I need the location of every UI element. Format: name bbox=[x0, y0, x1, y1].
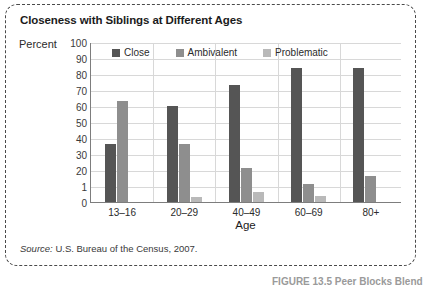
bar-close bbox=[105, 144, 116, 202]
figure-container: Closeness with Siblings at Different Age… bbox=[5, 4, 416, 266]
bar-ambivalent bbox=[117, 101, 128, 202]
page-title: Closeness with Siblings at Different Age… bbox=[20, 14, 242, 26]
legend-item-ambivalent: Ambivalent bbox=[176, 47, 250, 58]
bar-problematic bbox=[315, 196, 326, 202]
y-axis-tick-label: 1 bbox=[81, 182, 87, 193]
legend-label: Problematic bbox=[275, 47, 328, 58]
y-axis-tick-label: 30 bbox=[76, 150, 87, 161]
bar-ambivalent bbox=[179, 144, 190, 202]
bar-ambivalent bbox=[241, 168, 252, 202]
bar-group: 40–49 bbox=[215, 43, 277, 202]
chart-plot-area: 01203040506070809010013–1620–2940–4960–6… bbox=[90, 43, 401, 203]
x-axis-tick-label: 13–16 bbox=[108, 207, 136, 218]
y-axis-tick-label: 0 bbox=[81, 198, 87, 209]
x-axis-title: Age bbox=[90, 219, 401, 231]
chart-legend: CloseAmbivalentProblematic bbox=[112, 47, 354, 58]
figure-caption: FIGURE 13.5 Peer Blocks Blend bbox=[272, 276, 423, 287]
legend-item-problematic: Problematic bbox=[263, 47, 341, 58]
x-axis-tick-label: 20–29 bbox=[170, 207, 198, 218]
bar-close bbox=[291, 68, 302, 202]
bar-ambivalent bbox=[365, 176, 376, 202]
source-label: Source: bbox=[20, 243, 53, 254]
x-axis-tick-label: 40–49 bbox=[233, 207, 261, 218]
x-axis-tick-label: 80+ bbox=[362, 207, 379, 218]
source-note: Source: U.S. Bureau of the Census, 2007. bbox=[20, 243, 197, 254]
legend-swatch-icon bbox=[263, 49, 271, 57]
bar-close bbox=[167, 106, 178, 202]
y-axis-tick-label: 90 bbox=[76, 54, 87, 65]
y-axis-tick-label: 50 bbox=[76, 118, 87, 129]
bar-problematic bbox=[191, 197, 202, 202]
legend-label: Ambivalent bbox=[188, 47, 237, 58]
y-axis-tick-label: 20 bbox=[76, 166, 87, 177]
bar-group: 60–69 bbox=[278, 43, 340, 202]
bar-group: 20–29 bbox=[153, 43, 215, 202]
bar-problematic bbox=[253, 192, 264, 202]
y-axis-tick-label: 80 bbox=[76, 70, 87, 81]
legend-label: Close bbox=[124, 47, 150, 58]
bar-group: 80+ bbox=[340, 43, 402, 202]
legend-item-close: Close bbox=[112, 47, 163, 58]
bar-group: 13–16 bbox=[91, 43, 153, 202]
bar-close bbox=[229, 85, 240, 202]
y-axis-tick-label: 40 bbox=[76, 134, 87, 145]
legend-swatch-icon bbox=[112, 49, 120, 57]
legend-swatch-icon bbox=[176, 49, 184, 57]
y-axis-tick-label: 60 bbox=[76, 102, 87, 113]
x-axis-tick-label: 60–69 bbox=[295, 207, 323, 218]
chart-plot-wrapper: 01203040506070809010013–1620–2940–4960–6… bbox=[90, 43, 401, 203]
source-value: U.S. Bureau of the Census, 2007. bbox=[53, 243, 198, 254]
bar-close bbox=[353, 68, 364, 202]
y-axis-tick-label: 100 bbox=[70, 38, 87, 49]
bar-ambivalent bbox=[303, 184, 314, 202]
y-axis-tick-label: 70 bbox=[76, 86, 87, 97]
y-axis-title: Percent bbox=[19, 38, 57, 50]
